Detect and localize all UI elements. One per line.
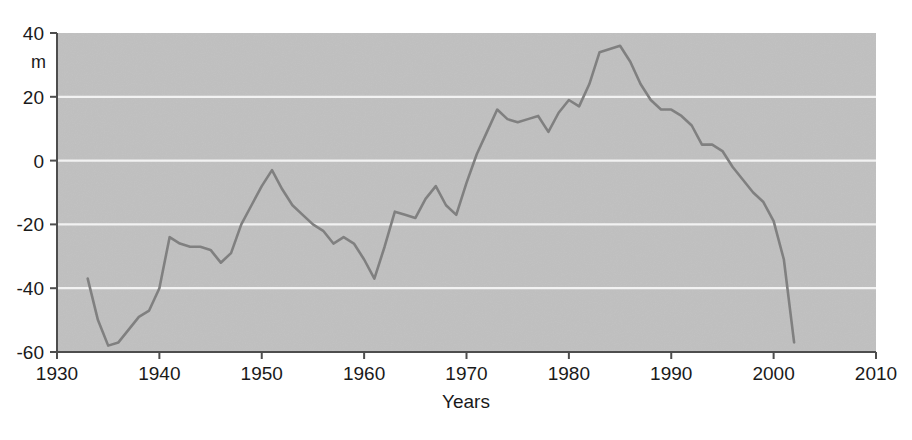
y-tick-label-20: 20 — [23, 87, 44, 108]
y-tick-label-40: 40 — [23, 23, 44, 44]
x-axis-tick-labels: 193019401950196019701980199020002010 — [36, 363, 897, 384]
line-chart: 40200-20-40-60 1930194019501960197019801… — [0, 0, 912, 440]
y-tick-label--60: -60 — [17, 342, 44, 363]
x-tick-label-1990: 1990 — [650, 363, 692, 384]
y-axis-unit-label: m — [31, 52, 46, 72]
x-tick-label-1980: 1980 — [548, 363, 590, 384]
y-tick-label--20: -20 — [17, 214, 44, 235]
x-tick-label-2000: 2000 — [752, 363, 794, 384]
y-tick-label-0: 0 — [33, 151, 44, 172]
x-tick-label-1950: 1950 — [241, 363, 283, 384]
x-tick-label-1930: 1930 — [36, 363, 78, 384]
x-tick-label-1960: 1960 — [343, 363, 385, 384]
x-tick-label-1940: 1940 — [138, 363, 180, 384]
x-tick-label-2010: 2010 — [855, 363, 897, 384]
x-axis-title: Years — [442, 391, 490, 412]
y-tick-label--40: -40 — [17, 278, 44, 299]
x-tick-label-1970: 1970 — [445, 363, 487, 384]
chart-container: 40200-20-40-60 1930194019501960197019801… — [0, 0, 912, 440]
